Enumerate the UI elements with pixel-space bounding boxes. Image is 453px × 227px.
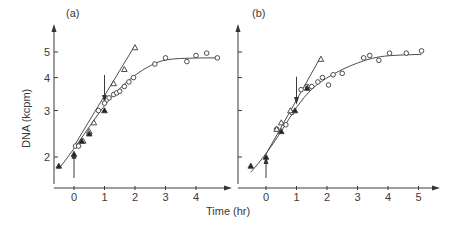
circle-marker — [127, 80, 132, 85]
panel-a: (a)012342345 — [44, 7, 228, 203]
circle-marker — [185, 59, 190, 64]
circle-marker — [163, 56, 168, 61]
x-tick-label: 5 — [415, 191, 421, 203]
x-tick-label: 0 — [263, 191, 269, 203]
panel-b: (b)012345 — [238, 7, 436, 203]
circle-marker — [387, 51, 392, 56]
circle-marker — [107, 96, 112, 101]
circle-marker — [215, 56, 220, 61]
filled-triangle-marker — [56, 163, 62, 168]
fit-curve — [251, 54, 422, 172]
open-triangle-marker — [318, 56, 324, 61]
filled-triangle-marker — [71, 151, 77, 156]
circle-marker — [117, 89, 122, 94]
circle-marker — [153, 62, 158, 67]
circle-marker — [194, 53, 199, 58]
x-tick-label: 3 — [162, 191, 168, 203]
x-tick-label: 1 — [293, 191, 299, 203]
x-tick-label: 2 — [324, 191, 330, 203]
x-tick-label: 2 — [132, 191, 138, 203]
y-tick-label: 2 — [44, 151, 50, 163]
open-triangle-marker — [278, 120, 284, 125]
fit-curve — [266, 57, 321, 154]
circle-marker — [419, 49, 424, 54]
x-axis-label: Time (hr) — [206, 205, 250, 217]
circle-marker — [367, 53, 372, 58]
circle-marker — [361, 56, 366, 61]
circle-marker — [299, 87, 304, 92]
circle-marker — [404, 51, 409, 56]
panel-title: (b) — [252, 7, 265, 19]
circle-marker — [326, 83, 331, 88]
y-tick-label: 4 — [44, 72, 50, 84]
circle-marker — [320, 75, 325, 80]
x-tick-label: 3 — [354, 191, 360, 203]
open-triangle-marker — [132, 45, 138, 50]
y-tick-label: 3 — [44, 105, 50, 117]
y-axis-label: DNA (kcpm) — [20, 89, 32, 148]
circle-marker — [76, 144, 81, 149]
fit-curve — [59, 58, 218, 169]
circle-marker — [340, 71, 345, 76]
panel-title: (a) — [66, 7, 79, 19]
x-tick-label: 4 — [385, 191, 391, 203]
open-triangle-marker — [122, 66, 128, 71]
open-triangle-marker — [91, 120, 97, 125]
circle-marker — [331, 72, 336, 77]
circle-marker — [96, 108, 101, 113]
figure: (a)012342345 (b)012345 Time (hr) DNA (kc… — [0, 0, 453, 227]
x-tick-label: 0 — [71, 191, 77, 203]
circle-marker — [204, 51, 209, 56]
y-tick-label: 5 — [44, 46, 50, 58]
circle-marker — [131, 75, 136, 80]
circle-marker — [102, 101, 107, 106]
circle-marker — [122, 84, 127, 89]
circle-marker — [309, 84, 314, 89]
circle-marker — [377, 58, 382, 63]
x-tick-label: 4 — [193, 191, 199, 203]
circle-marker — [316, 80, 321, 85]
filled-triangle-marker — [248, 163, 254, 168]
x-tick-label: 1 — [101, 191, 107, 203]
